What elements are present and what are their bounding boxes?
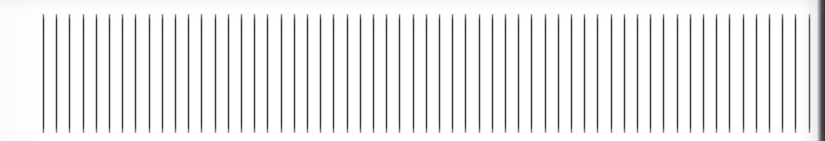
right-edge-penumbra — [802, 0, 816, 141]
vertical-rule-line — [611, 14, 612, 133]
vertical-rule-line — [545, 14, 546, 133]
vertical-rule-line — [413, 14, 414, 133]
vertical-rule-line — [360, 14, 361, 133]
vertical-rule-line — [122, 14, 123, 133]
vertical-rule-line — [637, 14, 638, 133]
vertical-rule-line — [56, 14, 57, 133]
vertical-rule-line — [479, 14, 480, 133]
vertical-rule-line — [43, 14, 44, 133]
vertical-rule-line — [307, 14, 308, 133]
vertical-rule-line — [571, 14, 572, 133]
vertical-rule-line — [320, 14, 321, 133]
vertical-rule-line — [175, 14, 176, 133]
vertical-rule-line — [743, 14, 744, 133]
vertical-rule-line — [83, 14, 84, 133]
vertical-rule-line — [756, 14, 757, 133]
vertical-rule-line — [109, 14, 110, 133]
vertical-rule-line — [584, 14, 585, 133]
vertical-rule-line — [267, 14, 268, 133]
vertical-rule-line — [663, 14, 664, 133]
vertical-rule-line — [597, 14, 598, 133]
vertical-rule-line — [69, 14, 70, 133]
vertical-rule-line — [201, 14, 202, 133]
vertical-rule-line — [465, 14, 466, 133]
vertical-rule-line — [254, 14, 255, 133]
vertical-rule-line — [96, 14, 97, 133]
vertical-rule-line — [188, 14, 189, 133]
right-edge-shadow-band — [816, 0, 825, 141]
vertical-rule-line — [281, 14, 282, 133]
vertical-rule-line — [518, 14, 519, 133]
vertical-rule-line — [149, 14, 150, 133]
vertical-rule-line — [690, 14, 691, 133]
vertical-rule-line — [729, 14, 730, 133]
vertical-rule-line — [531, 14, 532, 133]
image-canvas — [0, 0, 825, 141]
vertical-rule-line — [558, 14, 559, 133]
vertical-rule-line — [650, 14, 651, 133]
vertical-rule-line — [703, 14, 704, 133]
vertical-rule-line — [399, 14, 400, 133]
vertical-rule-line — [294, 14, 295, 133]
vertical-rule-line — [347, 14, 348, 133]
vertical-rule-line — [215, 14, 216, 133]
vertical-rule-line — [795, 14, 796, 133]
vertical-rule-line — [373, 14, 374, 133]
vertical-rule-line — [782, 14, 783, 133]
vertical-rule-line — [162, 14, 163, 133]
vertical-rule-line — [769, 14, 770, 133]
vertical-rule-line — [452, 14, 453, 133]
vertical-rule-line — [386, 14, 387, 133]
vertical-rule-line — [505, 14, 506, 133]
vertical-rule-line — [439, 14, 440, 133]
vertical-line-field — [43, 14, 821, 133]
vertical-rule-line — [426, 14, 427, 133]
vertical-rule-line — [677, 14, 678, 133]
vertical-rule-line — [492, 14, 493, 133]
vertical-rule-line — [228, 14, 229, 133]
vertical-rule-line — [716, 14, 717, 133]
vertical-rule-line — [135, 14, 136, 133]
vertical-rule-line — [241, 14, 242, 133]
vertical-rule-line — [333, 14, 334, 133]
vertical-rule-line — [624, 14, 625, 133]
